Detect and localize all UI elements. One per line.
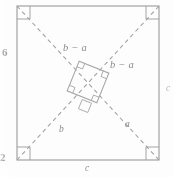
inner-right-angle-marks	[67, 61, 109, 103]
label-diagonal-b: b	[59, 125, 64, 135]
label-inner-upper-left: b − a	[63, 43, 87, 54]
crossing-right-angle-mark	[78, 99, 91, 112]
diagonals	[17, 6, 159, 160]
margin-left-page-number: 6	[2, 47, 8, 58]
label-side-bottom-c: c	[85, 164, 89, 174]
label-diagonal-a: a	[125, 120, 130, 130]
margin-bottom-left-number: 2	[0, 152, 6, 163]
inner-tilted-square	[67, 61, 109, 103]
label-side-right-c: c	[166, 84, 170, 94]
crossing-mark-path-2	[78, 99, 91, 112]
inner-square-outline	[67, 61, 109, 103]
figure-canvas	[0, 0, 173, 177]
crossing-mark-path	[78, 99, 91, 112]
label-inner-right: b − a	[110, 60, 134, 71]
geometry-figure: b − a b − a b a c c 6 2	[0, 0, 173, 177]
